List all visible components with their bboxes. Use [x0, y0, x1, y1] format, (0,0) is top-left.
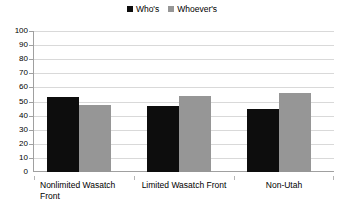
legend-item-whos: Who's [127, 4, 159, 14]
y-tick-label: 40 [0, 112, 28, 120]
x-axis: Nonlimited Wasatch Front Limited Wasatch… [34, 176, 334, 204]
bar-group-nonlimited-wasatch-front [34, 31, 134, 172]
bar-group-limited-wasatch-front [134, 31, 234, 172]
legend-label-whoevers: Whoever's [177, 4, 217, 14]
legend-swatch-whos [127, 6, 133, 12]
legend-swatch-whoevers [168, 6, 174, 12]
bar-chart: Who's Whoever's 100 90 80 70 60 50 40 30… [0, 0, 344, 206]
y-tick-label: 90 [0, 41, 28, 49]
bar-group-non-utah [234, 31, 334, 172]
y-tick-label: 50 [0, 98, 28, 106]
bar-whos-limited[interactable] [147, 106, 179, 172]
bar-whoevers-limited[interactable] [179, 96, 211, 172]
x-tick-label-non-utah: Non-Utah [234, 180, 334, 191]
y-tick-label: 20 [0, 140, 28, 148]
y-tick-label: 70 [0, 69, 28, 77]
x-axis-separator [34, 176, 35, 180]
bar-whos-non-utah[interactable] [247, 109, 279, 172]
x-tick-label-nonlimited: Nonlimited Wasatch Front [40, 180, 136, 201]
y-tick-label: 80 [0, 55, 28, 63]
y-tick-label: 30 [0, 126, 28, 134]
bar-whos-nonlimited[interactable] [47, 97, 79, 172]
y-tick-label: 0 [0, 168, 28, 176]
y-tick-label: 60 [0, 83, 28, 91]
y-tick-label: 10 [0, 154, 28, 162]
bar-whoevers-non-utah[interactable] [279, 93, 311, 172]
legend-item-whoevers: Whoever's [168, 4, 217, 14]
legend-label-whos: Who's [136, 4, 159, 14]
y-axis: 100 90 80 70 60 50 40 30 20 10 0 [0, 31, 28, 172]
bar-whoevers-nonlimited[interactable] [79, 105, 111, 172]
chart-legend: Who's Whoever's [0, 4, 344, 14]
x-tick-label-limited: Limited Wasatch Front [134, 180, 234, 191]
y-tick-label: 100 [0, 27, 28, 35]
bars-layer [34, 31, 334, 172]
